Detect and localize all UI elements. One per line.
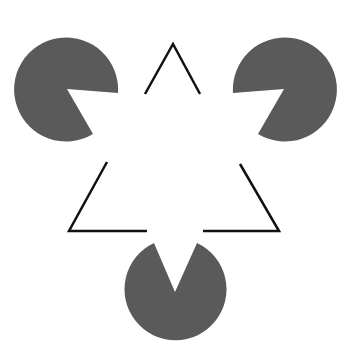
kanizsa-illustration [0, 0, 347, 363]
